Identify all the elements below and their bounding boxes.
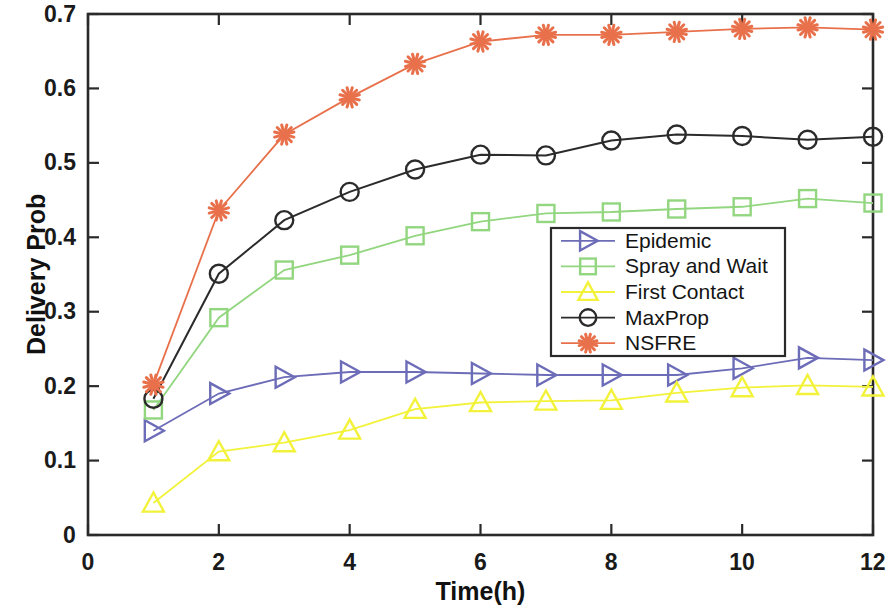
marker-triangle-up [797, 375, 818, 394]
y-axis-title: Delivery Prob [22, 194, 51, 355]
legend-item-label[interactable]: First Contact [625, 280, 744, 304]
legend-item-label[interactable]: NSFRE [625, 331, 696, 355]
y-tick-label: 0 [63, 522, 76, 549]
x-tick-label: 6 [474, 549, 487, 576]
legend-item-label[interactable]: Spray and Wait [625, 254, 768, 278]
y-tick-label: 0.6 [44, 75, 76, 102]
x-tick-label: 2 [212, 549, 225, 576]
series-epidemic [145, 347, 884, 441]
x-tick-label: 12 [860, 549, 886, 576]
series-first-contact [143, 375, 884, 512]
x-tick-label: 10 [729, 549, 755, 576]
series-line [153, 358, 873, 431]
x-axis-title: Time(h) [436, 577, 526, 606]
series-line [153, 385, 873, 503]
y-tick-label: 0.1 [44, 447, 76, 474]
y-tick-label: 0.5 [44, 149, 76, 176]
legend-item-label[interactable]: Epidemic [625, 229, 711, 253]
x-tick-label: 0 [82, 549, 95, 576]
x-tick-label: 4 [343, 549, 356, 576]
legend-item-label[interactable]: MaxProp [625, 306, 709, 330]
marker-triangle-up [339, 420, 360, 439]
y-tick-label: 0.2 [44, 373, 76, 400]
y-tick-label: 0.7 [44, 1, 76, 28]
x-tick-label: 8 [605, 549, 618, 576]
